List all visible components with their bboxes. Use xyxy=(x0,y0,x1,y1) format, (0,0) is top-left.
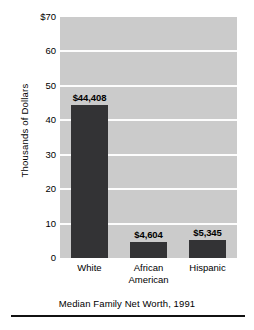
y-axis-tick-label: 40 xyxy=(14,115,56,125)
y-axis-tick-label: 10 xyxy=(14,219,56,229)
y-axis-tick-label: 0 xyxy=(14,253,56,263)
bar-value-label: $44,408 xyxy=(60,92,120,103)
bar xyxy=(189,240,226,258)
bar-value-label: $4,604 xyxy=(119,229,179,240)
x-axis-category-labels: WhiteAfricanAmericanHispanic xyxy=(60,262,237,298)
x-axis-category-line: African xyxy=(119,262,179,274)
x-axis-category-label: Hispanic xyxy=(178,262,238,274)
chart-figure: Thousands of Dollars 0102030405060$70 $4… xyxy=(0,0,254,330)
bottom-divider-rule xyxy=(11,315,245,317)
y-axis-tick-label: $70 xyxy=(14,12,56,22)
gridline xyxy=(60,50,237,52)
y-axis-tick-label: 50 xyxy=(14,81,56,91)
plot-area xyxy=(60,17,237,258)
x-axis-category-line: White xyxy=(60,262,120,274)
chart-caption: Median Family Net Worth, 1991 xyxy=(0,298,254,309)
gridline xyxy=(60,85,237,87)
x-axis-category-line: Hispanic xyxy=(178,262,238,274)
y-axis-tick-labels: 0102030405060$70 xyxy=(14,0,56,330)
bar xyxy=(71,105,108,258)
x-axis-category-label: White xyxy=(60,262,120,274)
y-axis-tick-label: 30 xyxy=(14,150,56,160)
x-axis-category-label: AfricanAmerican xyxy=(119,262,179,286)
y-axis-tick-label: 60 xyxy=(14,46,56,56)
bar xyxy=(130,242,167,258)
x-axis-category-line: American xyxy=(119,274,179,286)
bar-value-label: $5,345 xyxy=(178,227,238,238)
y-axis-tick-label: 20 xyxy=(14,184,56,194)
